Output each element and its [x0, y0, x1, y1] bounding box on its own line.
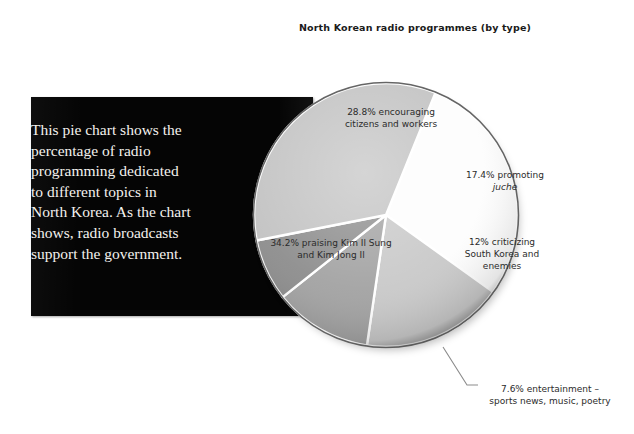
- caption-text: This pie chart shows the percentage of r…: [31, 120, 191, 264]
- slice-label-encouraging: 28.8% encouraging citizens and workers: [312, 107, 470, 131]
- slice-label-criticizing: 12% criticizing South Korea and enemies: [447, 237, 557, 273]
- callout-label-entertainment: 7.6% entertainment – sports news, music,…: [472, 383, 628, 407]
- chart-title: North Korean radio programmes (by type): [250, 22, 580, 33]
- chart-figure: North Korean radio programmes (by type) …: [0, 0, 634, 434]
- slice-label-praising: 34.2% praising Kim Il Sung and Kim Jong …: [249, 238, 413, 262]
- slice-label-juche-term: juche: [493, 182, 517, 192]
- slice-label-juche: 17.4% promotingjuche: [444, 170, 566, 194]
- slice-label-juche-prefix: 17.4% promoting: [466, 170, 544, 180]
